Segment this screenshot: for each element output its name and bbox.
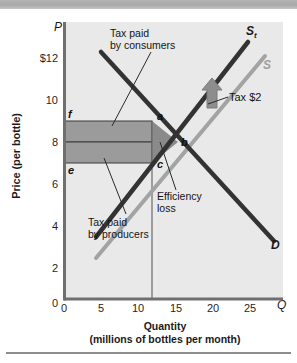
annotation-efficiency-loss: Efficiency loss [157, 190, 202, 214]
tax-paid-by-producers-region [65, 142, 152, 163]
annotation-tax-paid-by-producers: Tax paid by producers [88, 216, 149, 240]
point-label-b: b [181, 136, 188, 148]
annotation-tax-producers-line1: Tax paid [88, 216, 149, 228]
point-label-e: e [68, 164, 74, 176]
annotation-efficiency-line1: Efficiency [157, 190, 202, 202]
tax-incidence-figure: Price (per bottle) $12 10 8 6 4 2 0 0 5 … [0, 0, 297, 363]
x-axis-title: Quantity [40, 320, 290, 333]
chart-plot-area [0, 0, 297, 363]
annotation-tax-consumers-line1: Tax paid [110, 27, 175, 39]
tax-paid-by-consumers-region [65, 121, 152, 142]
point-label-a: a [157, 110, 163, 122]
curve-label-supply-tax: St [246, 24, 257, 40]
x-axis-caption: Quantity (millions of bottles per month) [40, 320, 290, 345]
curve-label-supply-tax-subscript: t [254, 31, 257, 40]
annotation-tax-producers-line2: by producers [88, 228, 149, 240]
annotation-tax-paid-by-consumers: Tax paid by consumers [110, 27, 175, 51]
point-label-f: f [68, 108, 72, 120]
point-label-c: c [157, 158, 163, 170]
curve-label-supply-tax-base: S [246, 24, 254, 38]
annotation-tax-amount: Tax $2 [229, 91, 261, 103]
curve-label-demand: D [271, 238, 280, 252]
x-axis-subtitle: (millions of bottles per month) [40, 333, 290, 346]
curve-label-supply: S [263, 58, 271, 72]
annotation-efficiency-line2: loss [157, 202, 202, 214]
annotation-tax-consumers-line2: by consumers [110, 39, 175, 51]
